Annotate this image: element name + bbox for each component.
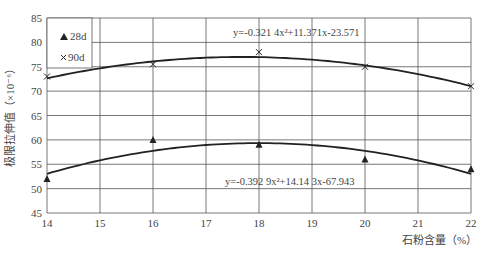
y-tick-label: 85: [31, 12, 43, 24]
x-tick-label: 20: [360, 217, 372, 229]
y-tick-label: 75: [31, 61, 43, 73]
y-tick-label: 65: [31, 110, 43, 122]
x-tick-label: 18: [254, 217, 266, 229]
legend: 28d 90d: [47, 18, 92, 68]
y-tick-label: 55: [31, 158, 43, 170]
triangle-point-icon: [468, 165, 475, 172]
x-axis-ticks: 141516171819202122: [42, 217, 477, 229]
legend-label-90d: 90d: [68, 51, 85, 63]
y-axis-title: 极限拉伸值（×10⁻⁶）: [3, 63, 16, 167]
y-tick-label: 70: [31, 85, 43, 97]
equation-90d: y=-0.321 4x²+11.371x-23.571: [233, 27, 360, 38]
x-tick-label: 16: [148, 217, 160, 229]
x-tick-label: 17: [201, 217, 213, 229]
x-axis-title: 石粉含量（%）: [402, 233, 477, 246]
triangle-point-icon: [362, 155, 369, 162]
legend-label-28d: 28d: [70, 30, 87, 42]
triangle-point-icon: [44, 175, 51, 182]
y-tick-label: 45: [31, 207, 43, 219]
equation-28d: y=-0.392 9x²+14.14 3x-67.943: [225, 176, 355, 187]
y-tick-label: 60: [31, 134, 43, 146]
x-tick-label: 14: [42, 217, 54, 229]
y-tick-label: 50: [31, 183, 43, 195]
y-axis-ticks: 455055606570758085: [31, 12, 43, 219]
x-tick-label: 19: [307, 217, 319, 229]
x-tick-label: 22: [466, 217, 477, 229]
x-tick-label: 21: [413, 217, 424, 229]
y-tick-label: 80: [31, 36, 43, 48]
chart-svg: 141516171819202122 455055606570758085 28…: [0, 0, 490, 255]
triangle-point-icon: [150, 136, 157, 143]
x-tick-label: 15: [95, 217, 107, 229]
triangle-point-icon: [256, 141, 263, 148]
